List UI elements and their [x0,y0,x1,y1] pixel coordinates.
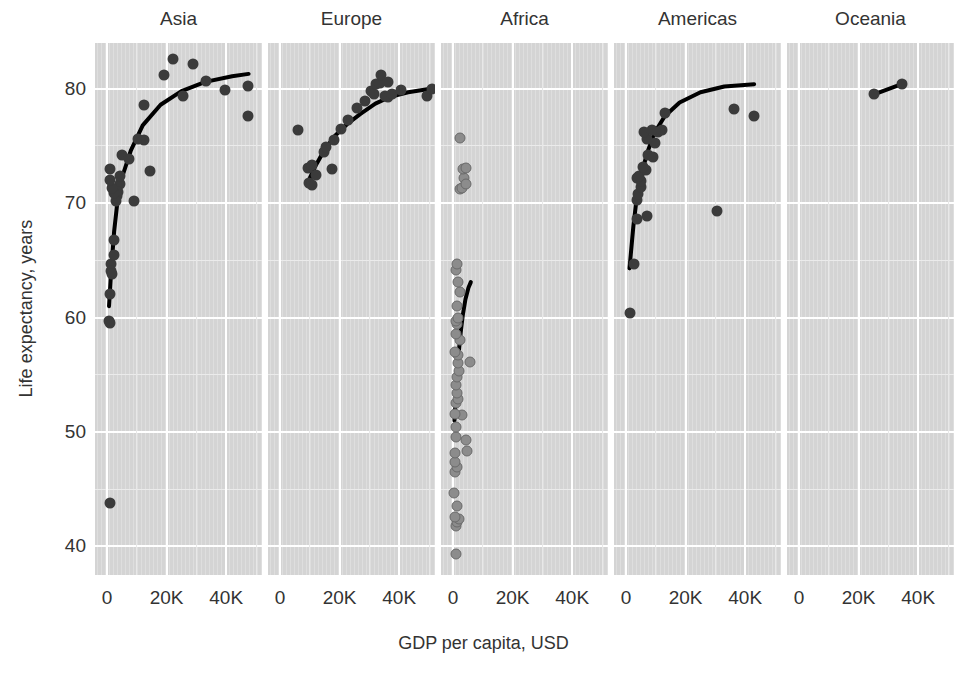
minor-gridline [406,43,407,575]
data-point [139,99,150,110]
minor-gridline [579,43,580,575]
minor-gridline [599,43,600,575]
x-tick-label: 0 [794,587,805,609]
minor-gridline [185,43,186,575]
data-point [105,175,116,186]
minor-gridline [241,43,242,575]
gridline-vertical [798,43,800,575]
minor-gridline [217,43,218,575]
minor-gridline [708,43,709,575]
minor-gridline [587,43,588,575]
minor-gridline [229,43,230,575]
data-point [427,83,435,94]
data-point [369,89,380,100]
minor-gridline [752,43,753,575]
minor-gridline [833,43,834,575]
gridline-vertical-minor [196,43,197,575]
minor-gridline [414,43,415,575]
minor-gridline [732,43,733,575]
data-point [452,312,463,323]
gridline-horizontal-minor [787,489,954,490]
gridline-horizontal-minor [268,489,435,490]
data-point [109,234,120,245]
minor-gridline [543,43,544,575]
minor-gridline [443,43,444,575]
minor-gridline [515,43,516,575]
minor-gridline [181,43,182,575]
minor-gridline [720,43,721,575]
x-tick-label: 40K [901,587,935,609]
minor-gridline [282,43,283,575]
facet-title-europe: Europe [268,8,435,30]
gridline-vertical [917,43,919,575]
minor-gridline [620,43,621,575]
minor-gridline [648,43,649,575]
minor-gridline [334,43,335,575]
gridline-horizontal-minor [787,260,954,261]
minor-gridline [676,43,677,575]
gridline-vertical-minor [888,43,889,575]
minor-gridline [426,43,427,575]
minor-gridline [897,43,898,575]
x-axis-label: GDP per capita, USD [0,633,967,654]
minor-gridline [129,43,130,575]
gridline-horizontal [441,202,608,204]
data-point [128,195,139,206]
data-point [461,162,472,173]
minor-gridline [157,43,158,575]
minor-gridline [945,43,946,575]
minor-gridline [189,43,190,575]
minor-gridline [193,43,194,575]
minor-gridline [390,43,391,575]
data-point [711,206,722,217]
data-point [624,308,635,319]
minor-gridline [712,43,713,575]
minor-gridline [495,43,496,575]
minor-gridline [378,43,379,575]
minor-gridline [563,43,564,575]
facet-title-africa: Africa [441,8,608,30]
data-point [292,124,303,135]
gridline-horizontal [268,202,435,204]
gridline-horizontal [614,545,781,547]
gridline-horizontal [614,431,781,433]
minor-gridline [133,43,134,575]
minor-gridline [776,43,777,575]
gridline-vertical-minor [655,43,656,575]
minor-gridline [591,43,592,575]
data-point [450,549,461,560]
minor-gridline [696,43,697,575]
minor-gridline [644,43,645,575]
minor-gridline [921,43,922,575]
minor-gridline [583,43,584,575]
minor-gridline [531,43,532,575]
gridline-vertical [166,43,168,575]
gridline-vertical-minor [429,43,430,575]
minor-gridline [869,43,870,575]
minor-gridline [257,43,258,575]
minor-gridline [660,43,661,575]
gridline-horizontal-minor [441,374,608,375]
gridline-horizontal-minor [95,145,262,146]
minor-gridline [294,43,295,575]
minor-gridline [358,43,359,575]
data-point [382,76,393,87]
minor-gridline [559,43,560,575]
gridline-horizontal-minor [787,145,954,146]
gridline-horizontal-minor [95,260,262,261]
minor-gridline [704,43,705,575]
minor-gridline [467,43,468,575]
gridline-vertical-minor [715,43,716,575]
minor-gridline [487,43,488,575]
data-point [311,169,322,180]
gridline-horizontal [441,545,608,547]
x-tick-label: 0 [102,587,113,609]
minor-gridline [422,43,423,575]
data-point [749,111,760,122]
gridline-horizontal-minor [441,260,608,261]
data-point [461,178,472,189]
minor-gridline [326,43,327,575]
x-tick-label: 20K [669,587,703,609]
minor-gridline [109,43,110,575]
data-point [106,269,117,280]
